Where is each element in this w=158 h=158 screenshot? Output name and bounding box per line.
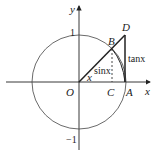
point-label-b: B	[108, 35, 115, 47]
point-label-a: A	[125, 86, 133, 98]
tick-label-top: 1	[70, 27, 75, 38]
point-label-c: C	[107, 86, 115, 98]
point-label-origin: O	[66, 86, 74, 98]
tangent-label: tanx	[128, 53, 145, 64]
angle-label: x	[86, 71, 92, 83]
tick-label-bottom: −1	[66, 134, 77, 145]
sine-label: sinx	[94, 65, 111, 76]
unit-circle-diagram: y x 1 −1 O C A B D x sinx tanx	[0, 0, 158, 158]
y-axis-label: y	[69, 3, 75, 15]
point-label-d: D	[121, 21, 130, 33]
x-axis-label: x	[144, 85, 150, 97]
